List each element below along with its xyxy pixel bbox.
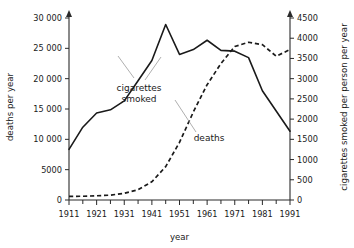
left-axis-title: deaths per year bbox=[5, 72, 15, 141]
left-tick-label: 0 bbox=[57, 195, 62, 205]
right-tick-label: 2500 bbox=[297, 94, 318, 104]
chart-container: 0500010 00015 00020 00025 00030 000 deat… bbox=[0, 0, 354, 248]
right-axis-title: cigarettes smoked per person per year bbox=[339, 23, 349, 191]
line-chart: 0500010 00015 00020 00025 00030 000 deat… bbox=[0, 0, 354, 248]
right-tick-label: 2000 bbox=[297, 114, 318, 124]
right-tick-label: 3500 bbox=[297, 53, 318, 63]
right-tick-label: 3000 bbox=[297, 74, 318, 84]
annotation-label-cigarettes-line1: cigarettes bbox=[117, 83, 162, 93]
left-tick-label: 5000 bbox=[41, 165, 62, 175]
x-tick-label: 1971 bbox=[224, 209, 245, 219]
left-tick-label: 30 000 bbox=[33, 13, 62, 23]
x-tick-label: 1941 bbox=[141, 209, 162, 219]
x-tick-label: 1951 bbox=[169, 209, 190, 219]
left-tick-label: 25 000 bbox=[33, 43, 62, 53]
x-tick-label: 1991 bbox=[280, 209, 301, 219]
left-tick-label: 20 000 bbox=[33, 74, 62, 84]
annotation-label-cigarettes-line2: smoked bbox=[121, 94, 156, 104]
x-tick-label: 1961 bbox=[197, 209, 218, 219]
x-tick-label: 1921 bbox=[86, 209, 107, 219]
x-tick-label: 1981 bbox=[252, 209, 273, 219]
right-tick-label: 1500 bbox=[297, 134, 318, 144]
right-tick-label: 500 bbox=[297, 175, 313, 185]
right-tick-label: 0 bbox=[297, 195, 302, 205]
x-axis-title: year bbox=[170, 232, 190, 242]
x-tick-label: 1911 bbox=[59, 209, 80, 219]
annotation-label-deaths: deaths bbox=[194, 133, 225, 143]
x-tick-labels: 191119211931194119511961197119811991 bbox=[59, 209, 301, 219]
x-tick-label: 1931 bbox=[114, 209, 135, 219]
right-tick-label: 4000 bbox=[297, 33, 318, 43]
left-tick-label: 10 000 bbox=[33, 134, 62, 144]
left-tick-label: 15 000 bbox=[33, 104, 62, 114]
right-tick-label: 4500 bbox=[297, 13, 318, 23]
right-tick-label: 1000 bbox=[297, 155, 318, 165]
